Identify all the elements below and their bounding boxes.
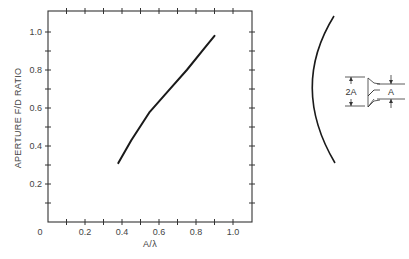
x-axis-title: A/λ [143,239,157,249]
y-tick-label: 0.6 [29,103,42,113]
x-tick-label: 0 [37,227,42,237]
fd-ratio-chart: 00.20.40.60.81.00.20.40.60.81.0 A/λ APER… [0,0,409,259]
reflector-diagram: 2A A [312,16,405,163]
x-tick-label: 0.6 [153,227,166,237]
label-a: A [388,87,394,97]
data-line [118,36,214,163]
x-tick-label: 0.2 [79,227,92,237]
axis-ticks [45,8,255,225]
reflector-arc [312,16,335,163]
tick-labels: 00.20.40.60.81.00.20.40.60.81.0 [29,27,239,237]
y-axis-title: APERTURE F/D RATIO [13,68,23,169]
x-tick-label: 0.8 [190,227,203,237]
y-tick-label: 0.2 [29,179,42,189]
plot-border [48,11,252,222]
y-tick-label: 1.0 [29,27,42,37]
y-tick-label: 0.8 [29,65,42,75]
plot-frame [48,11,252,222]
feed-horns-icon [368,78,405,107]
label-2a: 2A [345,87,356,97]
x-tick-label: 1.0 [227,227,240,237]
y-tick-label: 0.4 [29,141,42,151]
x-tick-label: 0.4 [116,227,129,237]
